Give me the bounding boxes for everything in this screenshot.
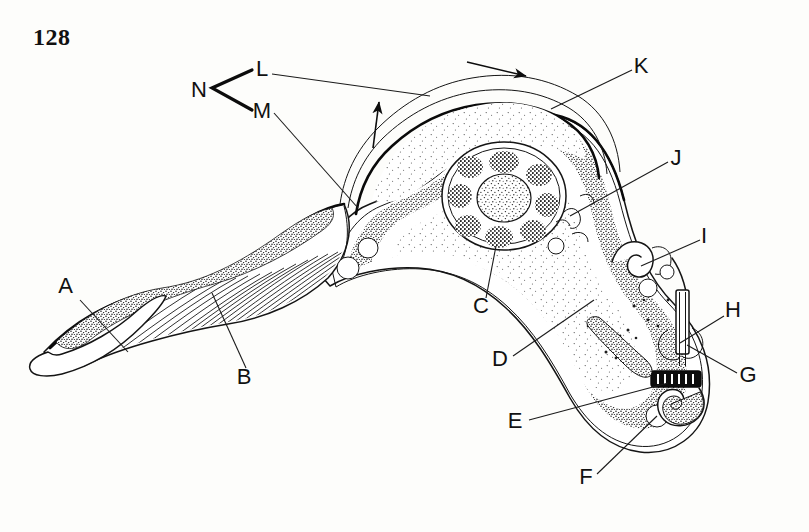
nucleolus	[477, 174, 531, 222]
label-G[interactable]: G	[739, 362, 756, 387]
vacuole-anterior-1	[358, 238, 378, 258]
label-E[interactable]: E	[508, 408, 523, 433]
label-N[interactable]: N	[191, 77, 207, 102]
membrane-flow-arrow-right	[467, 62, 526, 76]
label-I[interactable]: I	[701, 223, 707, 248]
label-H[interactable]: H	[725, 297, 741, 322]
label-D[interactable]: D	[492, 346, 508, 371]
label-J[interactable]: J	[671, 145, 682, 170]
figure-page: 128	[0, 0, 809, 532]
nucleus-group	[442, 142, 566, 250]
undulating-membrane-group	[30, 204, 374, 376]
label-C[interactable]: C	[473, 293, 489, 318]
label-A[interactable]: A	[58, 273, 73, 298]
membrane-flow-arrow-up	[373, 102, 379, 148]
leader-M	[274, 113, 358, 208]
label-F[interactable]: F	[579, 464, 592, 489]
vacuole-mid	[548, 238, 564, 254]
label-L[interactable]: L	[256, 56, 268, 81]
leader-L	[272, 74, 430, 96]
trypanosome-diagram: A B C D E F G H I J K L M N	[0, 0, 809, 532]
leader-K	[551, 70, 632, 109]
label-M[interactable]: M	[253, 98, 271, 123]
reservoir-vesicle	[660, 265, 674, 279]
vacuole-anterior-2	[337, 257, 359, 279]
reservoir-vesicle-2	[639, 279, 657, 297]
label-B[interactable]: B	[237, 364, 252, 389]
label-K[interactable]: K	[634, 53, 649, 78]
bracket-N	[212, 70, 252, 110]
basal-body-shaft	[676, 290, 689, 354]
